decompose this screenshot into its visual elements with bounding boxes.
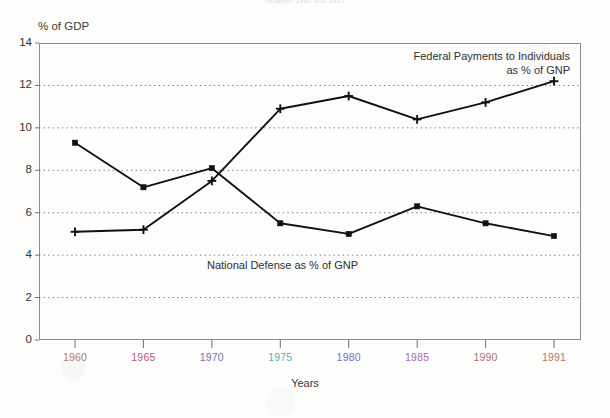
y-axis-title: % of GDP <box>38 20 89 32</box>
y-tick-label-8: 8 <box>0 164 32 176</box>
x-tick-label-1980: 1980 <box>319 352 379 363</box>
clipped-caption: between 1960 and 1991 <box>0 0 610 5</box>
y-tick-label-0: 0 <box>0 334 32 346</box>
y-tick-label-4: 4 <box>0 249 32 261</box>
y-tick-label-6: 6 <box>0 207 32 219</box>
chart-figure: between 1960 and 1991 % of GDP Federal P… <box>0 0 610 418</box>
y-tick-label-2: 2 <box>0 292 32 304</box>
y-tick-label-14: 14 <box>0 37 32 49</box>
x-tick-label-1985: 1985 <box>387 352 447 363</box>
x-tick-label-1960: 1960 <box>45 352 105 363</box>
x-tick-label-1970: 1970 <box>182 352 242 363</box>
x-tick-label-1991: 1991 <box>524 352 584 363</box>
y-tick-label-12: 12 <box>0 79 32 91</box>
x-tick-label-1965: 1965 <box>113 352 173 363</box>
x-tick-label-1990: 1990 <box>456 352 516 363</box>
y-tick-label-10: 10 <box>0 122 32 134</box>
plot-area <box>39 43 581 340</box>
x-tick-label-1975: 1975 <box>250 352 310 363</box>
x-axis-title: Years <box>0 377 610 389</box>
